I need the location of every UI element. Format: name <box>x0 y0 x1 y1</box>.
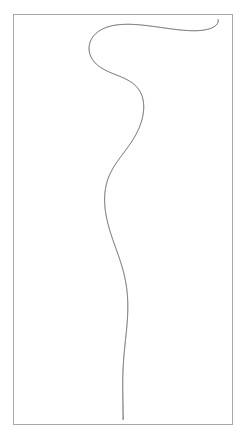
harmonograph-canvas <box>0 0 246 440</box>
harmonograph-curve-group <box>89 20 218 420</box>
harmonograph-curve <box>89 20 218 420</box>
figure-page <box>0 0 246 440</box>
